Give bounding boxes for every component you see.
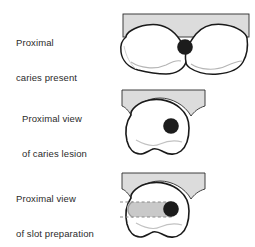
caption-line: of slot preparation [16, 228, 94, 240]
caption-line: Proximal [16, 37, 77, 49]
panel-proximal-caries [122, 90, 205, 154]
panel-occlusal [121, 14, 249, 74]
caption-proximal-view-slot-preparation: Proximal view of slot preparation [16, 170, 94, 247]
caries-lesion-icon [163, 201, 179, 217]
caption-line: of caries lesion [22, 148, 87, 160]
caries-lesion-icon [163, 118, 179, 134]
caption-proximal-caries-present: Proximal caries present [16, 14, 77, 95]
caption-proximal-view-caries-lesion: Proximal view of caries lesion [22, 90, 87, 171]
caption-line: Proximal view [16, 193, 94, 205]
panel-proximal-slot [120, 173, 205, 237]
caries-lesion-icon [177, 39, 193, 55]
caption-line: caries present [16, 72, 77, 84]
tooth-body-proximal [126, 99, 189, 154]
caption-line: Proximal view [22, 113, 87, 125]
